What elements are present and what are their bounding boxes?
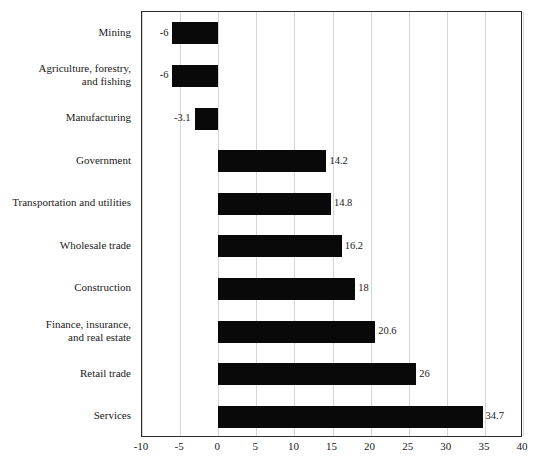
x-tick-label-10: 10: [288, 440, 299, 453]
data-label: 26: [419, 368, 430, 379]
data-label: -6: [160, 69, 169, 80]
data-label: -3.1: [174, 112, 191, 123]
x-tick-label-30: 30: [440, 440, 451, 453]
data-label: 16.2: [345, 240, 363, 251]
y-axis-label: Transportation and utilities: [0, 196, 136, 209]
y-axis-label: Retail trade: [0, 367, 136, 380]
x-tick-label-0: 0: [214, 440, 220, 453]
y-axis-label: Government: [0, 154, 136, 167]
y-axis-label: Wholesale trade: [0, 239, 136, 252]
data-label: 14.2: [329, 155, 347, 166]
scan-artifact-strip: [0, 0, 539, 6]
gridline-40: [523, 12, 524, 436]
data-label: 20.6: [378, 325, 396, 336]
data-label: 18: [358, 282, 369, 293]
x-tick-label-35: 35: [478, 440, 489, 453]
x-tick-label--10: -10: [134, 440, 149, 453]
y-axis-label: Manufacturing: [0, 111, 136, 124]
data-label-layer: -6-6-3.114.214.816.21820.62634.7: [141, 11, 522, 437]
y-axis-label: Agriculture, forestry, and fishing: [0, 62, 136, 88]
x-tick-label-15: 15: [326, 440, 337, 453]
x-tick-label-40: 40: [517, 440, 528, 453]
data-label: 34.7: [486, 410, 504, 421]
y-axis-label: Construction: [0, 281, 136, 294]
y-axis-label: Services: [0, 409, 136, 422]
x-tick-label-20: 20: [364, 440, 375, 453]
x-tick-label-25: 25: [402, 440, 413, 453]
data-label: 14.8: [334, 197, 352, 208]
y-axis-category-labels: MiningAgriculture, forestry, and fishing…: [0, 11, 136, 437]
y-axis-label: Mining: [0, 26, 136, 39]
y-axis-label: Finance, insurance, and real estate: [0, 318, 136, 344]
x-tick-label--5: -5: [175, 440, 184, 453]
x-axis-tick-labels: -10-50510152025303540: [141, 440, 522, 456]
data-label: -6: [160, 27, 169, 38]
chart-figure: MiningAgriculture, forestry, and fishing…: [0, 0, 539, 459]
x-tick-label-5: 5: [253, 440, 259, 453]
